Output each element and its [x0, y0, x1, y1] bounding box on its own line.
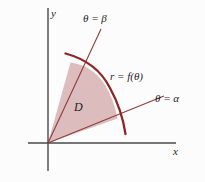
label-theta-equals-beta: θ = β [83, 13, 107, 24]
label-axis-x: x [173, 146, 178, 157]
label-region-d: D [74, 101, 83, 113]
label-axis-y: y [51, 8, 56, 19]
polar-region-figure: θ = β r = f(θ) θ = α D y x [0, 0, 205, 182]
label-theta-equals-alpha: θ = α [155, 93, 179, 104]
label-curve-equation: r = f(θ) [110, 71, 143, 82]
